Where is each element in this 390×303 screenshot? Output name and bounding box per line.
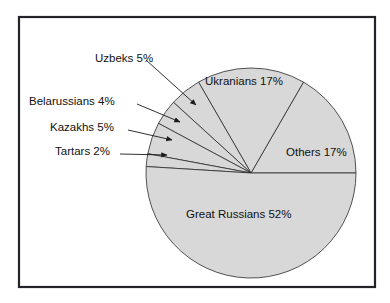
label-belarussians: Belarussians 4%	[29, 95, 115, 107]
pie-chart-figure: Others 17%Ukranians 17%Uzbeks 5%Belaruss…	[0, 0, 390, 303]
label-kazakhs: Kazakhs 5%	[50, 121, 114, 133]
pie-chart-canvas: Others 17%Ukranians 17%Uzbeks 5%Belaruss…	[0, 0, 390, 303]
label-ukranians: Ukranians 17%	[205, 75, 283, 87]
label-great-russians: Great Russians 52%	[186, 208, 291, 220]
pie-slices	[146, 68, 356, 278]
label-others: Others 17%	[286, 146, 347, 158]
label-tartars: Tartars 2%	[55, 145, 110, 157]
label-uzbeks: Uzbeks 5%	[95, 52, 153, 64]
